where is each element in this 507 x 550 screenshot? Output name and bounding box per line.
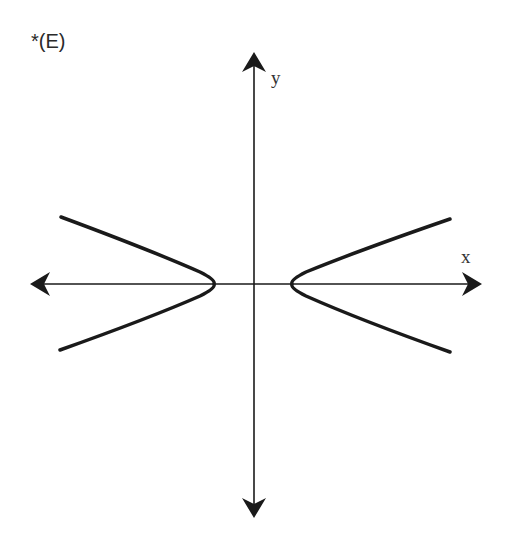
hyperbola-graph: y x [0,0,507,550]
hyperbola-right-branch [292,219,450,352]
x-axis [30,272,482,296]
y-axis [242,52,266,518]
y-axis-label: y [271,67,281,88]
x-axis-label: x [461,246,471,267]
